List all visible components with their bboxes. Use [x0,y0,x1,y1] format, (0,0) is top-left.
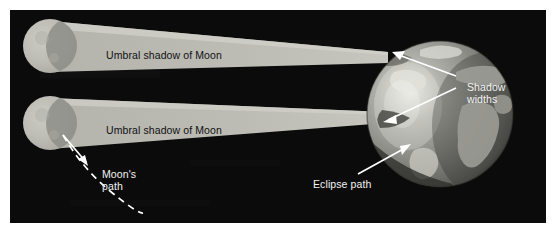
moons-path-label: Moon's path [102,169,136,193]
shadow-widths-label: Shadow widths [467,82,506,106]
space-scene-panel: Umbral shadow of Moon Umbral shadow of M… [10,10,546,223]
umbral-shadow-label-lower: Umbral shadow of Moon [106,125,222,137]
scene-graphics [10,10,546,223]
eclipse-path-label: Eclipse path [313,179,371,191]
eclipse-diagram-figure: Umbral shadow of Moon Umbral shadow of M… [0,0,556,233]
umbral-shadow-label-upper: Umbral shadow of Moon [106,50,222,62]
